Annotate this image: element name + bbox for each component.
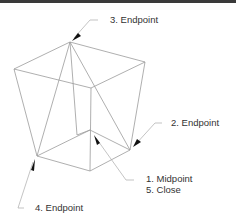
edge-back-vertical xyxy=(70,42,77,135)
arrow-4-icon xyxy=(31,159,35,171)
diagonal-apex-to-left xyxy=(37,42,70,156)
leader-4 xyxy=(18,162,33,208)
edge-left-vertical xyxy=(14,69,37,156)
edge-bottom-back-inner xyxy=(77,130,90,135)
leader-1 xyxy=(96,138,134,180)
callout-5-close: 5. Close xyxy=(146,184,181,195)
callout-1-midpoint: 1. Midpoint xyxy=(146,173,192,184)
edge-top-right-front xyxy=(91,62,145,88)
edge-bottom-right-front xyxy=(90,150,130,171)
callout-2-endpoint: 2. Endpoint xyxy=(171,117,219,128)
edge-bottom-left-back xyxy=(37,130,90,156)
arrow-1-icon xyxy=(94,135,100,145)
edge-top-back-right xyxy=(70,42,145,62)
frustum-diagram xyxy=(0,0,236,224)
edge-front-vertical xyxy=(90,88,91,171)
edge-top-left-back xyxy=(14,42,70,69)
callout-4-endpoint: 4. Endpoint xyxy=(35,202,83,213)
arrow-3-icon xyxy=(72,33,81,41)
edge-bottom-front-left xyxy=(37,156,90,171)
diagonal-apex-to-right xyxy=(70,42,130,150)
edge-top-front-left xyxy=(14,69,91,88)
callout-3-endpoint: 3. Endpoint xyxy=(110,14,158,25)
